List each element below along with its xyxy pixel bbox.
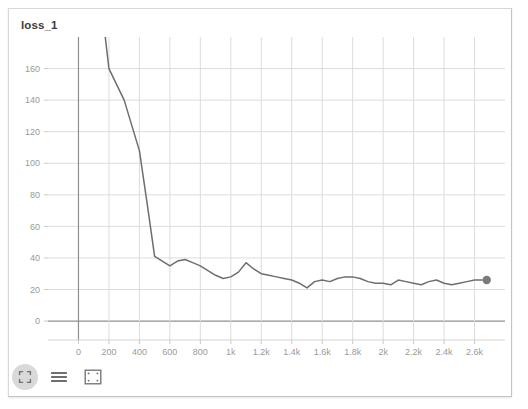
chart-gridlines [48, 37, 505, 340]
chart-y-tick-labels: 020406080100120140160 [25, 64, 48, 327]
series-clip-group [104, 29, 482, 288]
x-tick-label: 200 [101, 347, 116, 357]
x-tick-label: 1.6k [314, 347, 332, 357]
x-tick-label: 2.2k [405, 347, 423, 357]
select-region-icon-glyph [84, 369, 102, 385]
x-tick-label: 2k [378, 347, 388, 357]
chart-toolbar [12, 362, 106, 392]
y-tick-label: 160 [25, 64, 40, 74]
x-tick-label: 1k [226, 347, 236, 357]
line-chart: 02004006008001k1.2k1.4k1.6k1.8k2k2.2k2.4… [0, 0, 528, 409]
x-tick-label: 2.4k [436, 347, 454, 357]
chart-series-layer [104, 29, 491, 288]
expand-icon[interactable] [12, 364, 38, 390]
y-tick-label: 140 [25, 95, 40, 105]
x-tick-label: 0 [76, 347, 81, 357]
list-icon-glyph [50, 370, 68, 384]
series-line [104, 29, 482, 288]
x-tick-label: 600 [162, 347, 177, 357]
expand-icon-glyph [18, 370, 32, 384]
select-region-icon[interactable] [80, 364, 106, 390]
y-tick-label: 20 [30, 285, 40, 295]
y-tick-label: 100 [25, 158, 40, 168]
x-tick-label: 400 [132, 347, 147, 357]
y-tick-label: 120 [25, 127, 40, 137]
x-tick-label: 800 [193, 347, 208, 357]
chart-svg: 02004006008001k1.2k1.4k1.6k1.8k2k2.2k2.4… [0, 0, 528, 409]
x-tick-label: 1.2k [253, 347, 271, 357]
x-tick-label: 2.6k [466, 347, 484, 357]
screenshot-root: loss_1 02004006008001k1.2k1.4k1.6k1.8k2k… [0, 0, 528, 409]
y-tick-label: 40 [30, 253, 40, 263]
chart-x-tick-labels: 02004006008001k1.2k1.4k1.6k1.8k2k2.2k2.4… [76, 340, 484, 357]
y-tick-label: 0 [35, 316, 40, 326]
y-tick-label: 80 [30, 190, 40, 200]
x-tick-label: 1.4k [283, 347, 301, 357]
x-tick-label: 1.8k [344, 347, 362, 357]
y-tick-label: 60 [30, 222, 40, 232]
series-endpoint-marker [483, 276, 491, 284]
list-icon[interactable] [46, 364, 72, 390]
